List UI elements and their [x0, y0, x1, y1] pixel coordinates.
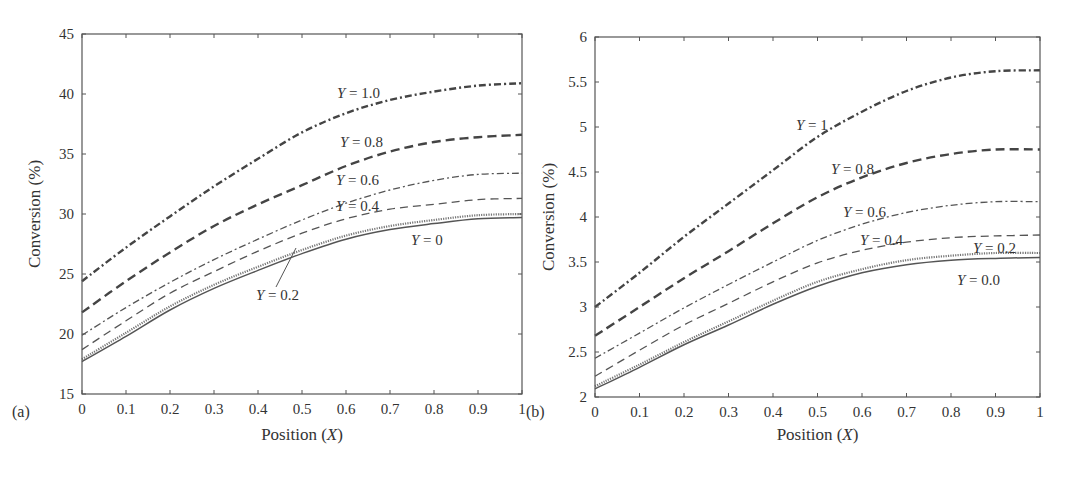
curve-label: Y = 0.4: [860, 232, 904, 248]
x-tick-label: 1: [1036, 404, 1044, 420]
x-tick-label: 0.8: [425, 401, 444, 417]
y-axis: 15202530354045: [59, 26, 522, 402]
x-tick-label: 0: [78, 401, 86, 417]
y-tick-label: 45: [59, 26, 74, 42]
curve-label: Y = 1: [796, 117, 828, 133]
y-axis-title: Conversion (%): [25, 160, 44, 268]
curve-label: Y = 0.2: [256, 287, 299, 303]
y-tick-label: 25: [59, 266, 74, 282]
y-tick-label: 2.5: [568, 344, 587, 360]
x-tick-label: 0.3: [205, 401, 224, 417]
curve-label: Y = 0.2: [973, 240, 1016, 256]
x-tick-label: 0.5: [293, 401, 312, 417]
y-axis: 22.533.544.555.56: [568, 29, 1040, 405]
x-tick-label: 0.2: [675, 404, 694, 420]
x-tick-label: 0.9: [986, 404, 1005, 420]
curve-label: Y = 0.0: [957, 272, 1000, 288]
x-tick-label: 0: [591, 404, 599, 420]
x-tick-label: 1: [518, 401, 526, 417]
y-tick-label: 3.5: [568, 254, 587, 270]
curve-annotations: Y = 1.0Y = 0.8Y = 0.6Y = 0.4Y = 0Y = 0.2: [256, 85, 443, 303]
plot-frame: [595, 37, 1040, 397]
y-tick-label: 5.5: [568, 74, 587, 90]
y-axis-title: Conversion (%): [539, 163, 558, 271]
curve-label: Y = 0.8: [831, 161, 874, 177]
curve-label: Y = 1.0: [337, 85, 380, 101]
figure: 00.10.20.30.40.50.60.70.80.9115202530354…: [0, 0, 1066, 478]
x-axis: 00.10.20.30.40.50.60.70.80.91: [78, 34, 526, 417]
series-line-y-0-2: [82, 214, 522, 359]
series-line-y-0-8: [82, 135, 522, 313]
annotation-leader-line: [276, 248, 296, 287]
y-tick-label: 3: [580, 299, 588, 315]
y-tick-label: 40: [59, 86, 74, 102]
y-tick-label: 2: [580, 389, 588, 405]
y-tick-label: 4.5: [568, 164, 587, 180]
y-tick-label: 35: [59, 146, 74, 162]
curve-label: Y = 0.8: [340, 134, 383, 150]
x-tick-label: 0.4: [764, 404, 783, 420]
panel-label: (b): [526, 403, 545, 421]
chart-panel-a: 00.10.20.30.40.50.60.70.80.9115202530354…: [12, 26, 526, 444]
x-tick-label: 0.7: [381, 401, 400, 417]
x-tick-label: 0.5: [808, 404, 827, 420]
x-tick-label: 0.1: [117, 401, 136, 417]
curve-label: Y = 0.6: [843, 204, 887, 220]
curve-label: Y = 0.6: [336, 172, 380, 188]
x-tick-label: 0.9: [469, 401, 488, 417]
panel-label: (a): [12, 403, 30, 421]
y-tick-label: 6: [580, 29, 588, 45]
x-axis-title: Position (X): [777, 425, 859, 444]
y-tick-label: 20: [59, 326, 74, 342]
x-tick-label: 0.6: [337, 401, 356, 417]
x-axis-title: Position (X): [261, 425, 343, 444]
chart-panel-b: 00.10.20.30.40.50.60.70.80.9122.533.544.…: [526, 29, 1044, 444]
x-tick-label: 0.7: [897, 404, 916, 420]
y-tick-label: 30: [59, 206, 74, 222]
x-tick-label: 0.2: [161, 401, 180, 417]
x-tick-label: 0.1: [630, 404, 649, 420]
x-tick-label: 0.6: [853, 404, 872, 420]
series-group: [82, 83, 522, 361]
series-line-y-0: [82, 218, 522, 362]
x-tick-label: 0.4: [249, 401, 268, 417]
x-tick-label: 0.3: [719, 404, 738, 420]
y-tick-label: 15: [59, 386, 74, 402]
curve-label: Y = 0: [411, 232, 443, 248]
x-axis: 00.10.20.30.40.50.60.70.80.91: [591, 37, 1044, 420]
series-line-y-1-0: [82, 83, 522, 281]
y-tick-label: 4: [580, 209, 588, 225]
y-tick-label: 5: [580, 119, 588, 135]
curve-label: Y = 0.4: [336, 198, 380, 214]
x-tick-label: 0.8: [942, 404, 961, 420]
